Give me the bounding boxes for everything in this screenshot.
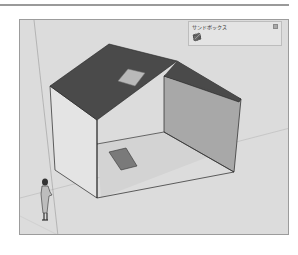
top-divider: [0, 4, 289, 6]
scale-figure: [41, 179, 52, 221]
sandbox-toolbar: サンドボックス: [188, 21, 282, 46]
from-scratch-icon[interactable]: [205, 32, 216, 43]
smoove-icon[interactable]: [218, 32, 229, 43]
toolbar-tools: [192, 32, 281, 43]
stamp-icon[interactable]: [231, 32, 242, 43]
house-model-drawing: [20, 20, 289, 235]
axis-line-green: [20, 216, 60, 235]
model-viewport[interactable]: サンドボックス: [19, 19, 289, 235]
drape-icon[interactable]: [244, 32, 255, 43]
flip-edge-icon[interactable]: [270, 32, 281, 43]
add-detail-icon[interactable]: [257, 32, 268, 43]
close-icon[interactable]: [273, 24, 278, 29]
toolbar-title: サンドボックス: [192, 23, 227, 30]
